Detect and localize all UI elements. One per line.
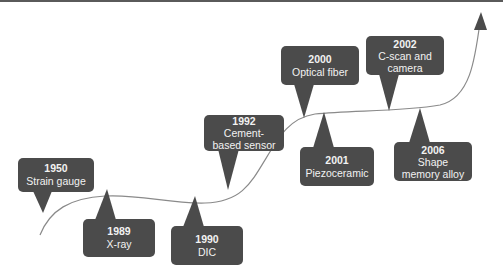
pointer-2001 <box>313 112 334 148</box>
callout-2001: 2001 Piezoceramic <box>300 147 374 186</box>
callout-1992: 1992 Cement-based sensor <box>204 115 284 151</box>
pointer-2006 <box>409 108 430 143</box>
callout-2000: 2000 Optical fiber <box>281 46 359 85</box>
event-label: DIC <box>198 246 216 259</box>
pointer-1990 <box>183 196 204 227</box>
event-year: 2006 <box>421 144 444 156</box>
pointer-1989 <box>95 189 116 220</box>
event-label: Optical fiber <box>292 66 348 79</box>
callout-1950: 1950 Strain gauge <box>18 158 94 192</box>
event-label: Shape memory alloy <box>398 156 468 180</box>
event-year: 2000 <box>308 53 331 66</box>
callout-1990: 1990 DIC <box>171 226 243 265</box>
event-label: Piezoceramic <box>305 167 368 180</box>
pointer-2002 <box>379 74 399 111</box>
event-label: Strain gauge <box>26 175 86 188</box>
event-year: 2001 <box>325 154 348 167</box>
event-year: 1950 <box>44 162 67 175</box>
event-label: X-ray <box>106 238 131 251</box>
callout-1989: 1989 X-ray <box>83 219 155 257</box>
event-year: 2002 <box>393 38 416 50</box>
callout-2006: 2006 Shape memory alloy <box>394 142 472 181</box>
event-label: C-scan and camera <box>374 50 436 74</box>
arrowhead-icon <box>474 12 487 30</box>
pointer-1992 <box>218 149 239 190</box>
callout-2002: 2002 C-scan and camera <box>366 36 444 75</box>
event-year: 1989 <box>107 225 130 238</box>
event-year: 1990 <box>195 233 218 246</box>
pointer-1950 <box>33 191 52 213</box>
event-label: Cement-based sensor <box>211 127 277 151</box>
pointer-2000 <box>294 84 314 118</box>
event-year: 1992 <box>232 115 255 127</box>
